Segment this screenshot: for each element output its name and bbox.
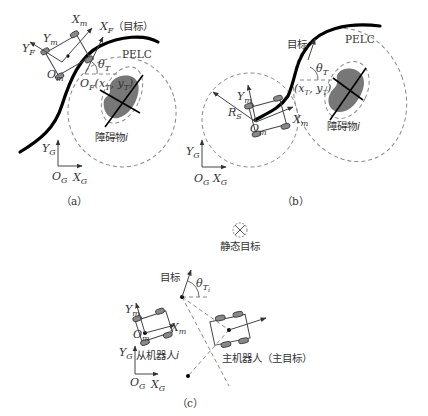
label-yg: YG [119, 346, 133, 361]
caption-c: （c） [177, 397, 203, 409]
formation-point [186, 374, 190, 378]
label-theta: θT [98, 58, 111, 73]
safety-circle [202, 73, 298, 167]
label-ym: Ym [125, 303, 140, 318]
wheel [238, 337, 249, 344]
formation-edge [182, 297, 229, 330]
label-xm: Xm [170, 321, 187, 336]
label-target: 目标 [287, 38, 308, 50]
label-static-target: 静态目标 [220, 240, 261, 252]
label-obstacle: 障碍物i [327, 120, 360, 132]
label-xg: XG [150, 378, 166, 393]
diagram-canvas: Xm XF（目标） Ym YF Om θT OF(xT, yT) PELC 障碍… [0, 0, 428, 416]
caption-a: （a） [61, 195, 87, 207]
wheel [273, 95, 283, 102]
wheel [155, 307, 165, 315]
label-leader: 主机器人（主目标） [222, 352, 312, 364]
label-ym: Ym [43, 32, 58, 47]
label-xf: XF（目标） [99, 20, 153, 35]
panel-a: Xm XF（目标） Ym YF Om θT OF(xT, yT) PELC 障碍… [20, 13, 188, 207]
label-rs: RS [227, 106, 242, 121]
label-og: OG [194, 172, 210, 187]
label-om: Om [133, 328, 150, 343]
label-om: Om [47, 68, 64, 83]
label-og: OG [52, 170, 68, 185]
label-obstacle: 障碍物i [95, 131, 128, 143]
label-pelc: PELC [122, 48, 152, 60]
label-yg: YG [186, 145, 200, 160]
panel-b: 目标 PELC θT (xT, yT) RS Ym Xm Om 障碍物i YG … [186, 12, 425, 207]
label-pelc: PELC [345, 33, 375, 45]
label-xm: Xm [292, 113, 309, 128]
static-target-icon [233, 223, 247, 237]
obstacle-shape [328, 68, 364, 112]
wheel [215, 315, 226, 322]
wheel [281, 123, 291, 130]
label-follower: 从机器人i [136, 349, 179, 361]
formation-edge [182, 297, 229, 386]
target-direction [182, 270, 191, 297]
leader-heading [229, 318, 266, 330]
label-xg: XG [72, 171, 88, 186]
theta-arc [92, 62, 97, 74]
label-theta: θT [316, 62, 329, 77]
label-yg: YG [42, 142, 56, 157]
caption-b: （b） [282, 195, 309, 207]
label-xm: Xm [71, 13, 88, 28]
wheel [221, 341, 232, 348]
label-og: OG [130, 376, 146, 391]
label-om: Om [250, 122, 267, 137]
label-coord: (xT, yT) [294, 82, 331, 97]
wheel [233, 311, 244, 318]
label-target: 目标 [160, 271, 181, 283]
label-xg: XG [212, 172, 228, 187]
panel-c: 静态目标 目标 θTi 主机器人（主目标） [119, 223, 312, 409]
